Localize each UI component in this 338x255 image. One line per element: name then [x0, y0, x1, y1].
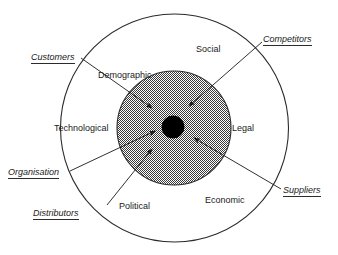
label-customers: Customers — [31, 53, 75, 64]
label-competitors: Competitors — [263, 35, 312, 46]
label-economic: Economic — [205, 196, 245, 205]
label-social: Social — [196, 45, 221, 54]
label-suppliers: Suppliers — [283, 186, 321, 197]
label-legal: Legal — [232, 124, 254, 133]
core-circle — [162, 116, 184, 138]
label-political: Political — [119, 202, 150, 211]
diagram-canvas: Social Demographic Technological Legal P… — [0, 0, 338, 255]
label-organisation: Organisation — [8, 168, 59, 179]
label-demographic: Demographic — [98, 71, 152, 80]
label-technological: Technological — [54, 124, 109, 133]
label-distributors: Distributors — [33, 209, 79, 220]
